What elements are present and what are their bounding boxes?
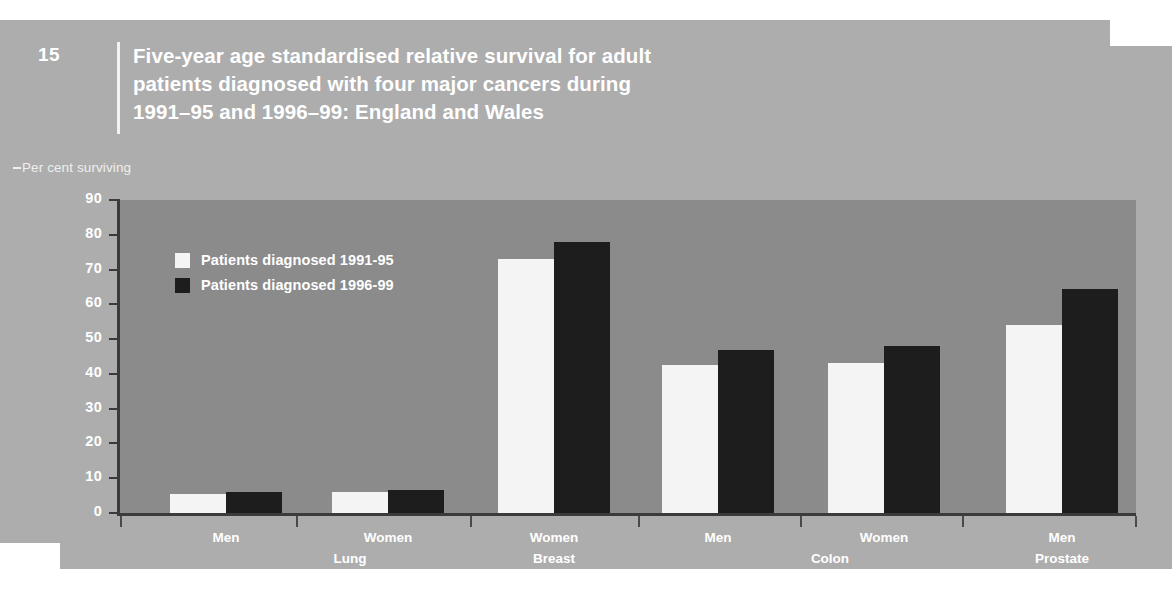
- title-line-2: patients diagnosed with four major cance…: [133, 70, 833, 98]
- x-axis-group-label: Lung: [280, 551, 420, 566]
- x-axis-group-label: Prostate: [992, 551, 1132, 566]
- x-axis-column-label: Women: [494, 530, 614, 545]
- y-axis-tick-label: 80: [64, 225, 102, 241]
- plot-area: [120, 200, 1136, 514]
- bar-1996-99: [554, 242, 610, 513]
- x-axis-column-label: Women: [824, 530, 944, 545]
- bar-1996-99: [1062, 289, 1118, 513]
- bar-1991-95: [662, 365, 718, 513]
- y-axis-line: [117, 199, 120, 516]
- figure-root: 15 Five-year age standardised relative s…: [0, 0, 1172, 590]
- x-axis-line: [117, 513, 1136, 516]
- x-axis-group-label: Colon: [760, 551, 900, 566]
- axis-note-tick: [13, 167, 21, 169]
- x-axis-tick: [638, 516, 640, 527]
- title-line-3: 1991–95 and 1996–99: England and Wales: [133, 98, 833, 126]
- y-axis-tick: [109, 303, 118, 305]
- legend-swatch-icon-1996-99: [175, 278, 190, 293]
- bar-1996-99: [718, 350, 774, 513]
- y-axis-tick-label: 20: [64, 433, 102, 449]
- x-axis-tick: [800, 516, 802, 527]
- x-axis-column-label: Women: [328, 530, 448, 545]
- x-axis-column-label: Men: [658, 530, 778, 545]
- x-axis-group-label: Breast: [484, 551, 624, 566]
- y-axis-tick-label: 60: [64, 294, 102, 310]
- y-axis-tick: [109, 442, 118, 444]
- x-axis-tick: [296, 516, 298, 527]
- legend-label-1996-99: Patients diagnosed 1996-99: [201, 277, 394, 293]
- bar-1996-99: [388, 490, 444, 513]
- legend-item-1991-95: Patients diagnosed 1991-95: [175, 252, 394, 268]
- y-axis-tick: [109, 477, 118, 479]
- y-axis-tick-label: 40: [64, 364, 102, 380]
- bar-1991-95: [1006, 325, 1062, 513]
- y-axis-tick: [109, 338, 118, 340]
- y-axis-tick-label: 10: [64, 468, 102, 484]
- y-axis-label: Per cent surviving: [22, 160, 131, 175]
- bar-1996-99: [226, 492, 282, 513]
- y-axis-tick: [109, 199, 118, 201]
- bar-1991-95: [170, 494, 226, 513]
- bar-1991-95: [828, 363, 884, 513]
- x-axis-column-label: Men: [166, 530, 286, 545]
- y-axis-tick: [109, 408, 118, 410]
- x-axis-tick: [1135, 516, 1137, 527]
- bar-1996-99: [884, 346, 940, 513]
- x-axis-tick: [962, 516, 964, 527]
- y-axis-tick: [109, 234, 118, 236]
- y-axis-tick-label: 90: [64, 190, 102, 206]
- y-axis-tick-label: 70: [64, 260, 102, 276]
- legend-swatch-icon-1991-95: [175, 253, 190, 268]
- title-line-1: Five-year age standardised relative surv…: [133, 42, 833, 70]
- title-divider: [117, 42, 120, 134]
- y-axis-tick: [109, 512, 118, 514]
- y-axis-tick-label: 30: [64, 399, 102, 415]
- x-axis-tick: [470, 516, 472, 527]
- y-axis-tick: [109, 373, 118, 375]
- legend: Patients diagnosed 1991-95 Patients diag…: [175, 252, 394, 302]
- y-axis-tick-label: 50: [64, 329, 102, 345]
- legend-label-1991-95: Patients diagnosed 1991-95: [201, 252, 394, 268]
- figure-title: Five-year age standardised relative surv…: [133, 42, 833, 126]
- y-axis-tick-label: 0: [64, 503, 102, 519]
- bar-1991-95: [332, 492, 388, 513]
- legend-item-1996-99: Patients diagnosed 1996-99: [175, 277, 394, 293]
- y-axis-tick: [109, 269, 118, 271]
- figure-number: 15: [38, 44, 60, 66]
- x-axis-column-label: Men: [1002, 530, 1122, 545]
- bar-1991-95: [498, 259, 554, 513]
- x-axis-tick: [120, 516, 122, 527]
